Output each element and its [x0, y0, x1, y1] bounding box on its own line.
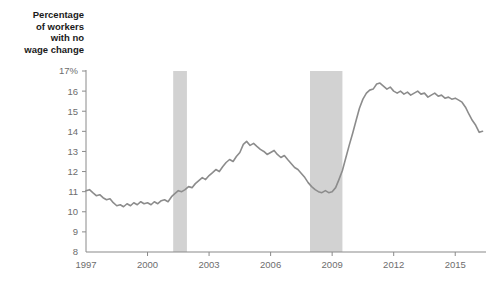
chart-container: Percentage of workers with no wage chang…: [0, 0, 499, 294]
chart-plot: 891011121314151617%199720002003200620092…: [0, 0, 499, 294]
recession-band-1: [173, 71, 187, 252]
y-axis-tick-label: 14: [67, 126, 78, 137]
x-axis-tick-label: 2000: [137, 259, 158, 270]
y-axis-tick-label: 8: [73, 246, 78, 257]
x-axis-tick-label: 2006: [260, 259, 281, 270]
x-axis-tick-label: 1997: [75, 259, 96, 270]
x-axis-tick-label: 2012: [383, 259, 404, 270]
y-axis-tick-label: 11: [68, 186, 78, 197]
x-axis-tick-label: 2009: [322, 259, 343, 270]
x-axis-tick-label: 2015: [445, 259, 466, 270]
y-axis-tick-label: 17%: [59, 65, 79, 76]
y-axis-tick-label: 15: [67, 106, 78, 117]
recession-band-2: [310, 71, 342, 252]
y-axis-tick-label: 13: [67, 146, 78, 157]
y-axis-tick-label: 12: [67, 166, 78, 177]
y-axis-tick-label: 9: [73, 226, 78, 237]
y-axis-tick-label: 10: [67, 206, 78, 217]
data-series-line: [86, 83, 483, 207]
y-axis-tick-label: 16: [67, 86, 78, 97]
x-axis-tick-label: 2003: [199, 259, 220, 270]
